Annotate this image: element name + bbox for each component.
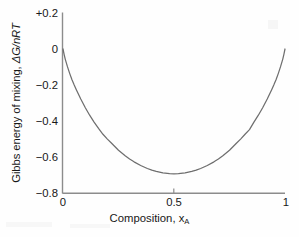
plot-area — [0, 0, 299, 237]
data-series-line — [63, 49, 285, 174]
figure-canvas: Gibbs energy of mixing, ΔG/nRT +0.2 0 −0… — [0, 0, 299, 237]
